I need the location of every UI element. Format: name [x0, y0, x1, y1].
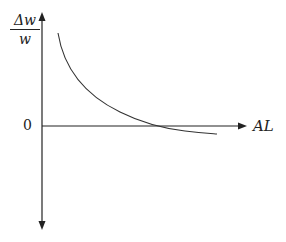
x-axis-label: AL	[253, 117, 274, 135]
y-label-numerator: Δw	[10, 12, 40, 30]
y-axis-down-arrow-icon	[39, 221, 46, 230]
diagram: Δw w 0 AL	[0, 0, 286, 242]
y-label-denominator: w	[10, 30, 40, 47]
diagram-canvas	[0, 0, 286, 242]
y-axis-label: Δw w	[10, 12, 40, 47]
curve	[58, 33, 217, 134]
origin-label: 0	[23, 117, 32, 133]
x-axis-arrow-icon	[238, 123, 247, 130]
